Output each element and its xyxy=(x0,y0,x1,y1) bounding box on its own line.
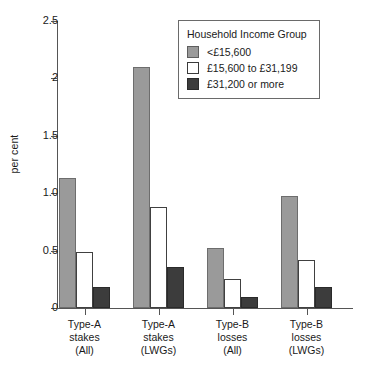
x-tick-mark xyxy=(307,309,308,315)
bar xyxy=(59,178,76,308)
bar xyxy=(241,297,258,308)
y-tick-label: 0.5 xyxy=(12,245,58,256)
x-axis-group-label-line: Type-B xyxy=(261,318,353,331)
bar xyxy=(133,67,150,308)
x-axis-line xyxy=(57,308,353,309)
bar xyxy=(224,279,241,308)
x-tick-mark xyxy=(159,309,160,315)
bar xyxy=(93,287,110,308)
x-axis-group-label-line: losses xyxy=(261,331,353,344)
bar-chart: per cent 00.51.01.522.5 Type-Astakes(All… xyxy=(0,0,366,367)
bar xyxy=(207,248,224,308)
bar xyxy=(298,260,315,308)
bar-group xyxy=(59,21,110,308)
bar-group xyxy=(133,21,184,308)
legend-swatch xyxy=(187,46,199,58)
y-tick: 0.5 xyxy=(0,251,58,252)
bar xyxy=(281,196,298,309)
bar xyxy=(167,267,184,308)
legend: Household Income Group <£15,600£15,600 t… xyxy=(178,20,320,99)
x-tick-mark xyxy=(85,309,86,315)
y-tick-label: 1.0 xyxy=(12,187,58,198)
y-tick-label: 1.5 xyxy=(12,130,58,141)
y-tick-label: 2 xyxy=(12,72,58,83)
y-tick: 0 xyxy=(0,308,58,309)
bar xyxy=(315,287,332,308)
legend-swatch xyxy=(187,78,199,90)
legend-label: <£15,600 xyxy=(207,46,251,58)
legend-entry: <£15,600 xyxy=(187,46,311,58)
y-tick-label: 2.5 xyxy=(12,15,58,26)
legend-label: £15,600 to £31,199 xyxy=(207,62,298,74)
legend-entries: <£15,600£15,600 to £31,199£31,200 or mor… xyxy=(187,46,311,90)
legend-entry: £15,600 to £31,199 xyxy=(187,62,311,74)
y-tick: 2.5 xyxy=(0,21,58,22)
x-axis-group-label-line: (LWGs) xyxy=(261,344,353,357)
x-axis-group-label: Type-Blosses(LWGs) xyxy=(261,318,353,356)
y-tick: 1.5 xyxy=(0,136,58,137)
y-tick: 2 xyxy=(0,78,58,79)
bar xyxy=(150,207,167,308)
y-tick: 1.0 xyxy=(0,193,58,194)
legend-swatch xyxy=(187,62,199,74)
legend-title: Household Income Group xyxy=(187,28,311,40)
legend-label: £31,200 or more xyxy=(207,78,284,90)
bar xyxy=(76,252,93,308)
x-tick-mark xyxy=(233,309,234,315)
y-tick-label: 0 xyxy=(12,302,58,313)
legend-entry: £31,200 or more xyxy=(187,78,311,90)
